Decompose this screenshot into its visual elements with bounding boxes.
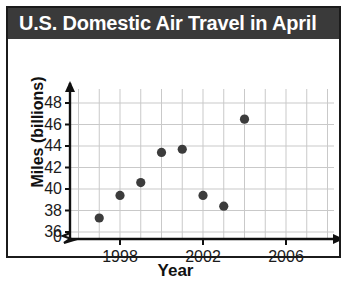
data-point xyxy=(115,191,124,200)
chart-figure: U.S. Domestic Air Travel in April 363840… xyxy=(0,0,347,281)
data-point xyxy=(157,148,166,157)
data-point xyxy=(136,178,145,187)
y-axis-title: Miles (billions) xyxy=(29,66,47,198)
y-origin-label: 0 xyxy=(36,228,62,246)
data-point xyxy=(240,115,249,124)
plot-region: 363840424446480 199820022006 Miles (bill… xyxy=(8,39,339,258)
data-point xyxy=(219,202,228,211)
data-point xyxy=(95,213,104,222)
chart-frame: U.S. Domestic Air Travel in April 363840… xyxy=(6,6,341,258)
y-tick-label: 38 xyxy=(36,202,62,220)
x-axis-title: Year xyxy=(8,261,343,281)
data-point xyxy=(178,145,187,154)
chart-title-bar: U.S. Domestic Air Travel in April xyxy=(8,8,339,39)
data-point xyxy=(198,191,207,200)
chart-title: U.S. Domestic Air Travel in April xyxy=(19,12,317,35)
